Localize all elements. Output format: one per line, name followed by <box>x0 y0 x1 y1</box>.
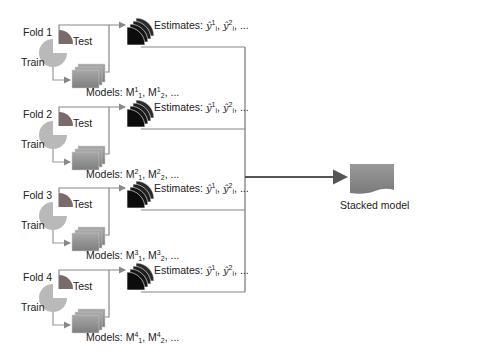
test-wedge-icon <box>59 30 73 44</box>
fold-3-models-label: Models: M31, M32, ... <box>86 249 179 261</box>
test-wedge-icon <box>59 275 73 289</box>
test-wedge-icon <box>59 112 73 126</box>
fold-1-test-label: Test <box>73 35 92 47</box>
fold-3-label: Fold 3 <box>23 189 52 201</box>
diagram-canvas <box>0 0 495 361</box>
fold-3-train-label: Train <box>21 219 45 231</box>
fold-3-estimates-label: Estimates: ŷ1i, ŷ2i, ... <box>154 182 249 195</box>
fold-1-label: Fold 1 <box>23 26 52 38</box>
estimates-stack-icon <box>127 263 154 290</box>
fold-4-label: Fold 4 <box>23 271 52 283</box>
fold-4-test-label: Test <box>73 280 92 292</box>
fold-2-label: Fold 2 <box>23 108 52 120</box>
stacked-model-icon <box>350 164 394 194</box>
fold-2-train-label: Train <box>21 138 45 150</box>
fold-2-test-label: Test <box>73 117 92 129</box>
estimates-stack-icon <box>127 100 154 127</box>
fold-4-estimates-label: Estimates: ŷ1i, ŷ2i, ... <box>154 264 249 277</box>
fold-2-estimates-label: Estimates: ŷ1i, ŷ2i, ... <box>154 101 249 114</box>
fold-4-train-label: Train <box>21 301 45 313</box>
fold-1-models-label: Models: M11, M12, ... <box>86 86 179 98</box>
fold-1-estimates-label: Estimates: ŷ1i, ŷ2i, ... <box>154 19 249 32</box>
fold-4-models-label: Models: M41, M42, ... <box>86 331 179 343</box>
fold-1-train-label: Train <box>21 56 45 68</box>
fold-2-models-label: Models: M21, M22, ... <box>86 168 179 180</box>
test-wedge-icon <box>59 193 73 207</box>
estimates-stack-icon <box>127 181 154 208</box>
stacked-model-label: Stacked model <box>340 199 409 211</box>
fold-3-test-label: Test <box>73 198 92 210</box>
estimates-stack-icon <box>127 18 154 45</box>
